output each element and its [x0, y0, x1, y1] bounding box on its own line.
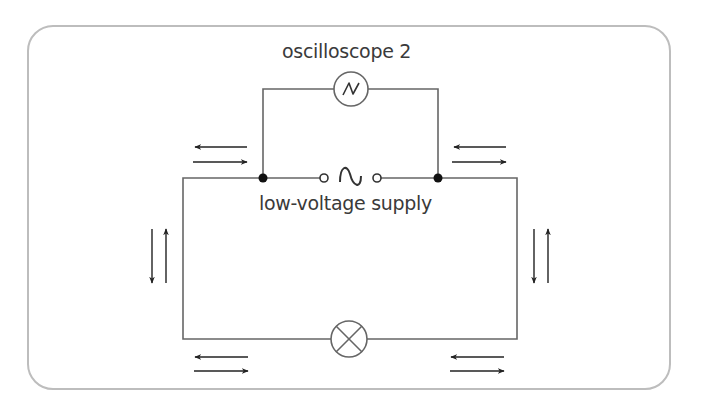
oscilloscope-label: oscilloscope 2 — [282, 40, 411, 62]
junction-dot-left — [259, 174, 268, 183]
oscilloscope-icon — [334, 72, 368, 106]
junction-dot-right — [434, 174, 443, 183]
lamp-icon — [331, 321, 367, 357]
supply-label: low-voltage supply — [259, 192, 432, 214]
ac-supply-icon — [320, 168, 381, 185]
